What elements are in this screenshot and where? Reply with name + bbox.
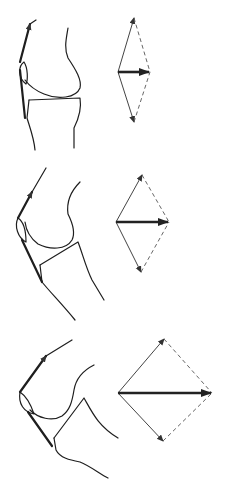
quadriceps-tendon (20, 356, 46, 392)
panel-extension (20, 18, 150, 150)
quadriceps-tendon (20, 24, 30, 62)
force-parallelogram (118, 18, 150, 122)
patellar-tendon (22, 240, 42, 282)
force-parallelogram (116, 175, 169, 272)
force-parallelogram (118, 339, 212, 441)
tibia-front (27, 100, 35, 150)
panel-mid-flexion (16, 168, 169, 320)
femur (25, 28, 80, 97)
femur (30, 365, 94, 419)
quadriceps-tendon (18, 192, 32, 218)
knee-sketch (16, 168, 104, 320)
patella (20, 392, 34, 414)
knee-sketch (20, 340, 118, 478)
tibia (54, 398, 118, 438)
tibia-front (40, 265, 75, 320)
tibia (29, 98, 81, 148)
tibia-front (54, 438, 108, 478)
component-up (118, 18, 134, 72)
component-down (118, 72, 134, 122)
patellar-tendon (20, 70, 25, 118)
femur (25, 182, 80, 248)
knee-sketch (20, 20, 81, 150)
knee-force-diagram (0, 0, 225, 490)
panel-deep-flexion (20, 339, 212, 478)
